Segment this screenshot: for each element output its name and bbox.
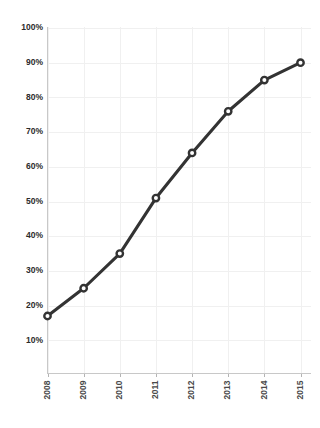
x-axis-tick-label: 2008 [42, 380, 52, 399]
data-point-marker [44, 313, 50, 319]
y-axis-tick-label: 100% [21, 22, 43, 32]
y-axis-tick-label: 10% [26, 335, 43, 345]
data-point-marker [297, 60, 303, 66]
x-axis-tick-label: 2010 [114, 380, 124, 399]
y-axis-tick-label: 70% [26, 126, 43, 136]
x-axis-tick-label: 2015 [295, 380, 305, 399]
y-axis-tick-label: 90% [26, 57, 43, 67]
y-axis-tick-label: 30% [26, 265, 43, 275]
y-axis-tick-label: 80% [26, 92, 43, 102]
data-point-marker [117, 250, 123, 256]
data-point-marker [225, 108, 231, 114]
data-point-marker [189, 150, 195, 156]
y-axis-tick-label: 40% [26, 230, 43, 240]
x-axis-tick-label: 2013 [222, 380, 232, 399]
data-point-marker [80, 285, 86, 291]
x-axis-tick-label: 2014 [259, 380, 269, 399]
x-axis-tick-label: 2009 [78, 380, 88, 399]
data-point-marker [153, 195, 159, 201]
y-axis-tick-label: 60% [26, 161, 43, 171]
x-axis-tick-label: 2012 [186, 380, 196, 399]
y-axis-tick-label: 20% [26, 300, 43, 310]
y-axis-tick-label: 50% [26, 196, 43, 206]
x-axis-tick-label: 2011 [150, 380, 160, 399]
line-chart: 10%20%30%40%50%60%70%80%90%100% 20082009… [0, 0, 320, 428]
data-point-marker [261, 77, 267, 83]
chart-canvas: 10%20%30%40%50%60%70%80%90%100% 20082009… [0, 0, 320, 428]
